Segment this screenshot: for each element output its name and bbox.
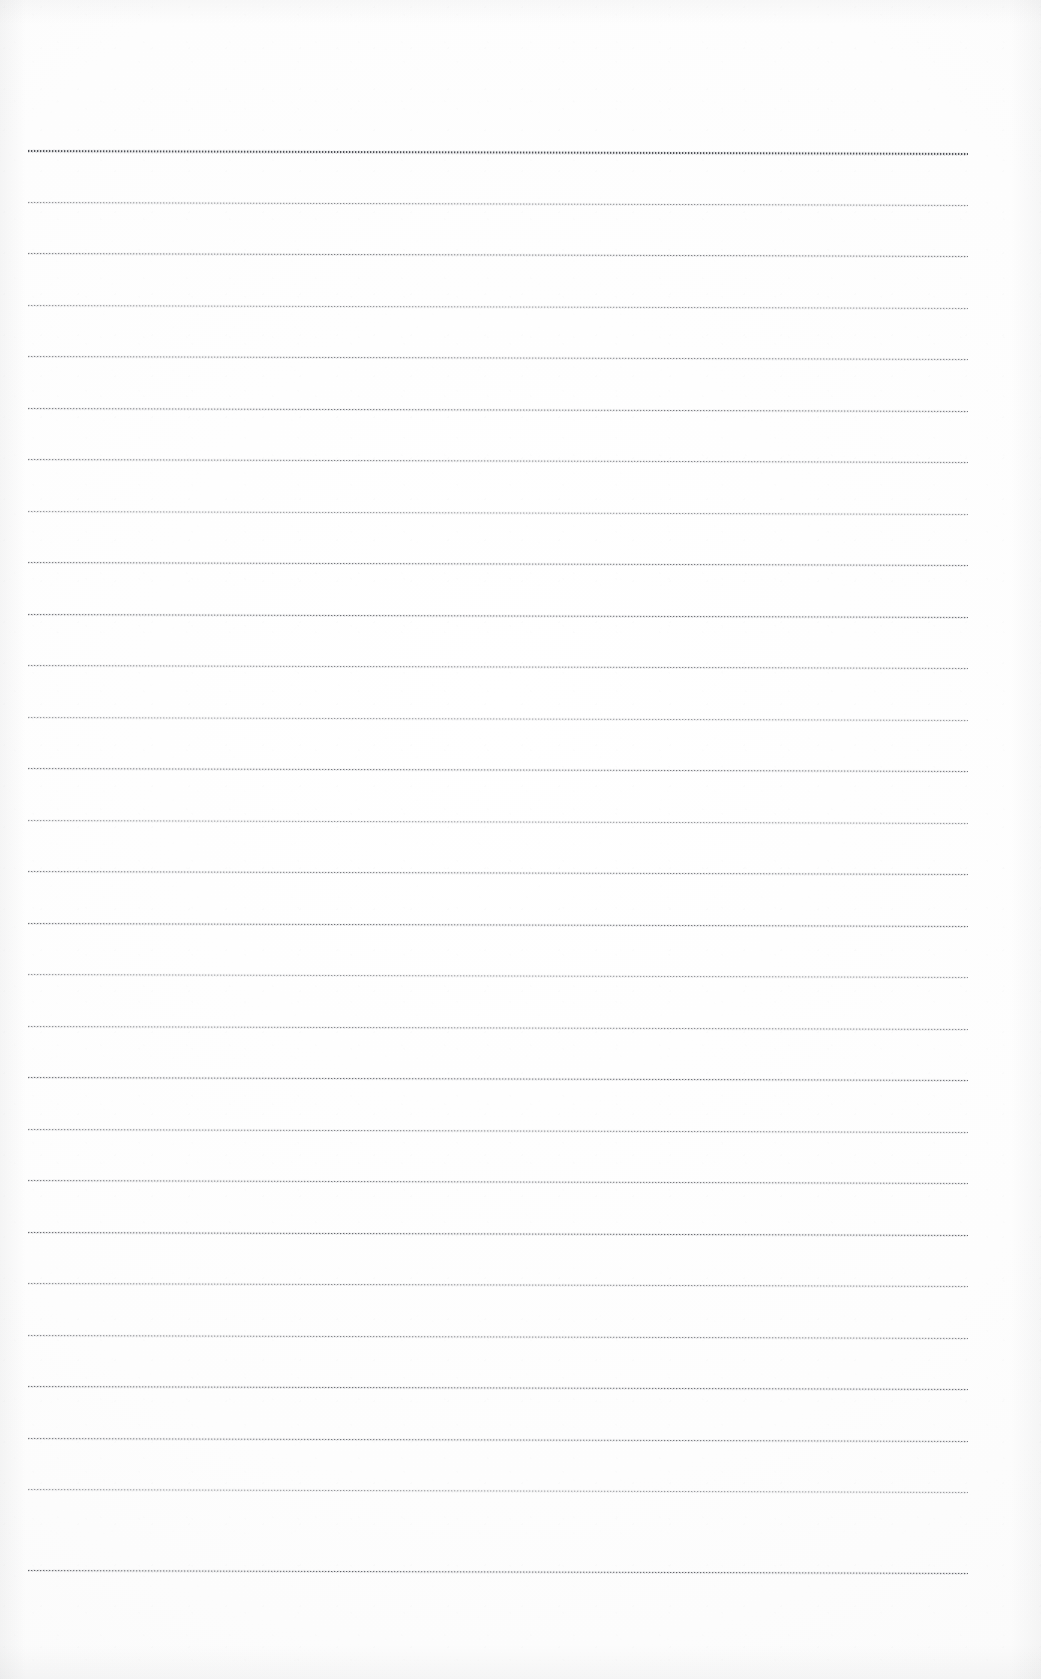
rule-line bbox=[28, 1489, 968, 1493]
rule-line bbox=[28, 820, 968, 824]
rule-line bbox=[28, 717, 968, 721]
rule-line bbox=[28, 614, 968, 618]
rule-line bbox=[28, 768, 968, 772]
rule-line bbox=[28, 974, 968, 978]
scanned-page bbox=[0, 0, 1041, 1679]
rule-line bbox=[28, 150, 968, 155]
rule-line bbox=[28, 923, 968, 927]
rule-line bbox=[28, 871, 968, 875]
rule-line bbox=[28, 253, 968, 257]
rule-line bbox=[28, 665, 968, 669]
ruled-lines-group bbox=[0, 0, 1041, 1679]
rule-line bbox=[28, 1283, 968, 1287]
rule-line bbox=[28, 562, 968, 566]
rule-line bbox=[28, 305, 968, 309]
rule-line bbox=[28, 1386, 968, 1390]
rule-line bbox=[28, 408, 968, 412]
rule-line bbox=[28, 356, 968, 360]
rule-line bbox=[28, 202, 968, 206]
rule-line bbox=[28, 1335, 968, 1339]
rule-line bbox=[28, 1438, 968, 1442]
rule-line bbox=[28, 1129, 968, 1133]
rule-line bbox=[28, 1570, 968, 1574]
rule-line bbox=[28, 1026, 968, 1030]
rule-line bbox=[28, 459, 968, 463]
rule-line bbox=[28, 511, 968, 515]
rule-line bbox=[28, 1180, 968, 1184]
rule-line bbox=[28, 1077, 968, 1081]
rule-line bbox=[28, 1232, 968, 1236]
